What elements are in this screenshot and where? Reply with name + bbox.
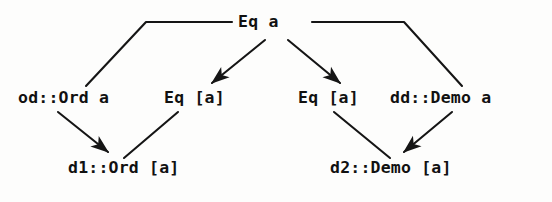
edge-od-ord-a-to-d1-ord-list-a [58, 112, 108, 152]
edge-root-to-eq-list-a-left [212, 40, 265, 83]
node-dd-demo-a: dd::Demo a [390, 90, 491, 107]
node-eq-a: Eq a [238, 14, 279, 31]
edge-root-to-od-ord-a [86, 22, 232, 86]
node-eq-list-a-left: Eq [a] [164, 90, 225, 107]
edge-eq-list-a-right-to-d2 [334, 112, 390, 158]
diagram-canvas: Eq a od::Ord a Eq [a] Eq [a] dd::Demo a … [0, 0, 552, 202]
edge-root-to-eq-list-a-right [288, 40, 340, 83]
edge-eq-list-a-left-to-d1 [124, 112, 178, 158]
node-eq-list-a-right: Eq [a] [298, 90, 359, 107]
edge-dd-demo-a-to-d2 [404, 112, 452, 152]
node-od-ord-a: od::Ord a [18, 90, 109, 107]
node-d1-ord-list-a: d1::Ord [a] [68, 160, 179, 177]
node-d2-demo-list-a: d2::Demo [a] [330, 160, 452, 177]
edge-root-to-dd-demo-a [312, 22, 462, 86]
